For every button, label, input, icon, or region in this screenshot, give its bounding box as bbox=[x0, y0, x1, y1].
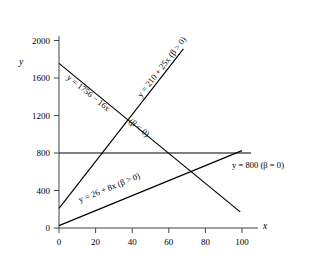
x-tick-label-60: 60 bbox=[155, 238, 183, 247]
x-tick-label-100: 100 bbox=[228, 238, 256, 247]
chart-container: 0 400 800 1200 1600 2000 0 20 40 60 80 1… bbox=[0, 0, 320, 260]
y-axis-title: y bbox=[19, 58, 23, 68]
x-tick-label-20: 20 bbox=[82, 238, 110, 247]
y-tick-label-1600: 1600 bbox=[16, 74, 50, 83]
x-tick-label-80: 80 bbox=[191, 238, 219, 247]
series-line-shallow-positive bbox=[59, 151, 242, 226]
x-tick-label-0: 0 bbox=[45, 238, 73, 247]
y-tick-label-800: 800 bbox=[16, 149, 50, 158]
x-axis-ticks bbox=[59, 228, 242, 233]
y-tick-label-1200: 1200 bbox=[16, 112, 50, 121]
series-label-zero-slope: y = 800 (β = 0) bbox=[232, 161, 284, 170]
y-axis-ticks bbox=[54, 41, 59, 229]
y-tick-label-2000: 2000 bbox=[16, 37, 50, 46]
x-axis-title: x bbox=[263, 222, 267, 232]
y-tick-label-400: 400 bbox=[16, 187, 50, 196]
x-tick-label-40: 40 bbox=[118, 238, 146, 247]
y-tick-label-0: 0 bbox=[16, 224, 50, 233]
